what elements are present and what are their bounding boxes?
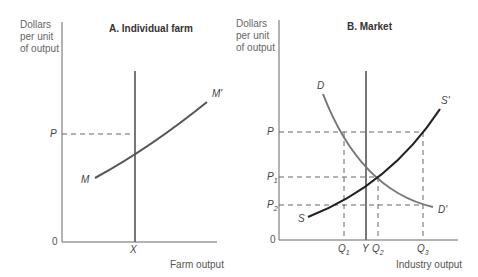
panel-b-y-label: Y	[362, 243, 369, 255]
panel-b-supply-curve	[308, 109, 440, 217]
q2-sub: 2	[380, 249, 384, 256]
ylabel-line-1: Dollars	[20, 19, 59, 31]
panel-a-p-label: P	[50, 128, 57, 140]
panel-a-m-curve	[95, 102, 207, 178]
panel-b-p1-label: P1	[267, 171, 278, 187]
panel-b-q2-label: Q2	[372, 243, 384, 259]
panel-b-q3-label: Q3	[417, 243, 429, 259]
panel-b-d-label: D	[317, 80, 324, 92]
q3-sub: 3	[425, 249, 429, 256]
p1-main: P	[267, 171, 274, 182]
panel-b-p2-label: P2	[267, 199, 278, 215]
panel-b-title: B. Market	[347, 21, 392, 32]
q2-main: Q	[372, 243, 380, 254]
panel-b-s-label: S	[298, 213, 305, 225]
panel-b-origin: 0	[270, 234, 276, 246]
ylabel-line-2: per unit	[20, 31, 59, 43]
panel-b-y-axis-label: Dollars per unit of output	[236, 18, 275, 54]
panel-b-p-label: P	[267, 126, 274, 138]
ylabel-line-3: of output	[20, 43, 59, 55]
panel-b-d-prime-label: D'	[438, 204, 447, 216]
q1-main: Q	[338, 243, 346, 254]
panel-b-x-axis-label: Industry output	[396, 259, 462, 271]
p2-sub: 2	[274, 205, 278, 212]
panel-b-s-prime-label: S'	[441, 95, 450, 107]
panel-a-title: A. Individual farm	[109, 23, 193, 34]
p2-main: P	[267, 199, 274, 210]
panel-a-m-label: M	[81, 174, 89, 186]
q3-main: Q	[417, 243, 425, 254]
panel-a-y-axis-label: Dollars per unit of output	[20, 19, 59, 55]
panel-a-m-prime-label: M'	[212, 88, 222, 100]
ylabel-line-3: of output	[236, 42, 275, 54]
q1-sub: 1	[346, 249, 350, 256]
panel-a-x-label: X	[130, 244, 137, 256]
panel-a-x-axis-label: Farm output	[170, 259, 224, 271]
panel-a-origin: 0	[52, 236, 58, 248]
panel-b-q1-label: Q1	[338, 243, 350, 259]
ylabel-line-1: Dollars	[236, 18, 275, 30]
ylabel-line-2: per unit	[236, 30, 275, 42]
p1-sub: 1	[274, 177, 278, 184]
